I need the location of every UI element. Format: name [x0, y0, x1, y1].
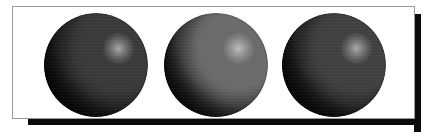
sphere-1: [44, 13, 148, 117]
sphere-1-rim: [44, 13, 148, 117]
figure-root: [0, 0, 432, 136]
sphere-3: [282, 13, 386, 117]
panel-drop-shadow-right: [414, 14, 421, 132]
sphere-2: [164, 13, 268, 117]
panel-drop-shadow-bottom: [28, 118, 421, 125]
sphere-2-rim: [164, 13, 268, 117]
sphere-stage: [12, 6, 415, 119]
sphere-3-rim: [282, 13, 386, 117]
